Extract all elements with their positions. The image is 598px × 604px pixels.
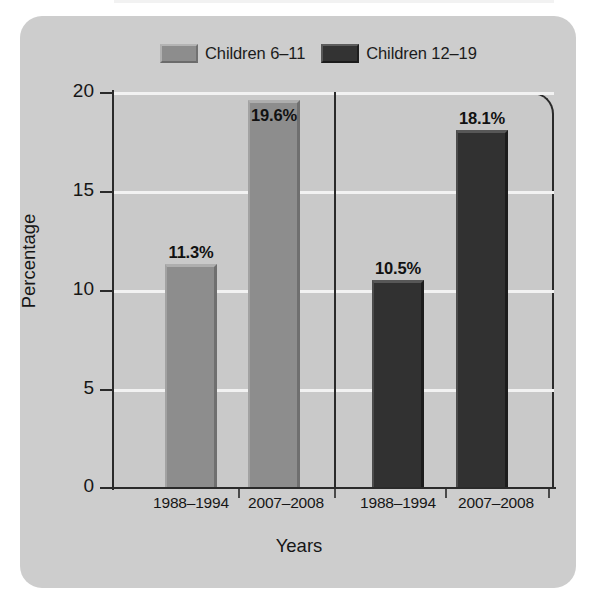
bar-children-12-19-1988-1994[interactable] <box>372 280 424 487</box>
y-tick-mark-10 <box>100 290 113 292</box>
chart-figure: Children 6–11 Children 12–19 20 15 10 5 … <box>0 0 598 604</box>
y-tick-mark-5 <box>100 389 113 391</box>
bar-label-children-12-19-2007-2008: 18.1% <box>427 109 537 128</box>
x-axis-spine <box>104 487 556 489</box>
y-tick-label-15: 15 <box>40 179 94 201</box>
legend-item-children-6-11[interactable]: Children 6–11 <box>160 44 305 63</box>
legend-label-children-6-11: Children 6–11 <box>205 44 305 63</box>
y-tick-mark-20 <box>100 92 113 94</box>
y-tick-mark-0 <box>100 487 113 489</box>
gridline-10-hidden <box>114 0 554 3</box>
bar-label-children-6-11-1988-1994: 11.3% <box>136 243 246 262</box>
legend-label-children-12-19: Children 12–19 <box>366 44 477 63</box>
y-tick-label-20: 20 <box>40 80 94 102</box>
group-divider <box>334 92 336 488</box>
y-axis-title: Percentage <box>18 191 40 331</box>
legend-swatch-icon-children-12-19 <box>321 44 359 63</box>
legend-item-children-12-19[interactable]: Children 12–19 <box>321 44 477 63</box>
y-tick-mark-15 <box>100 191 113 193</box>
legend-swatch-icon-children-6-11 <box>160 44 198 63</box>
x-tick-label-4: 2007–2008 <box>436 494 556 512</box>
bar-label-children-12-19-1988-1994: 10.5% <box>343 259 453 278</box>
x-axis-title: Years <box>0 535 598 557</box>
y-tick-label-10: 10 <box>40 278 94 300</box>
y-tick-label-0: 0 <box>40 475 94 497</box>
chart-legend: Children 6–11 Children 12–19 <box>160 40 480 66</box>
bar-children-12-19-2007-2008[interactable] <box>456 130 508 487</box>
bar-label-children-6-11-2007-2008: 19.6% <box>219 106 329 125</box>
bar-children-6-11-1988-1994[interactable] <box>165 264 217 487</box>
bar-children-6-11-2007-2008[interactable] <box>248 100 300 487</box>
y-tick-label-5: 5 <box>40 377 94 399</box>
x-tick-label-2: 2007–2008 <box>226 494 346 512</box>
